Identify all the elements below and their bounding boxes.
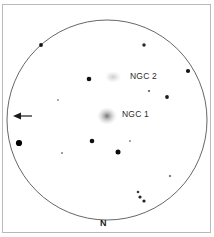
- star: [129, 140, 131, 142]
- star: [39, 43, 43, 47]
- star: [61, 152, 63, 154]
- star: [137, 191, 140, 194]
- nebula-ngc-2: [105, 71, 122, 83]
- star: [90, 139, 95, 144]
- nebula-ngc-1: [97, 107, 117, 125]
- star: [87, 77, 92, 82]
- label-north-direction: N: [100, 218, 107, 228]
- star: [169, 175, 171, 177]
- star: [116, 150, 121, 155]
- west-direction-arrow: [13, 113, 32, 120]
- eyepiece-sketch-figure: NGC 2 NGC 1 N: [0, 0, 214, 237]
- nebulae-layer: [97, 71, 122, 125]
- arrow-head-icon: [13, 113, 21, 120]
- star: [186, 69, 190, 73]
- star: [57, 99, 59, 101]
- label-ngc-1: NGC 1: [122, 109, 149, 119]
- star: [16, 140, 22, 146]
- star: [142, 199, 145, 202]
- star: [165, 95, 169, 99]
- star: [142, 43, 145, 46]
- star: [148, 90, 150, 92]
- field-of-view-canvas: [0, 0, 214, 237]
- star: [138, 195, 141, 198]
- label-ngc-2: NGC 2: [130, 71, 157, 81]
